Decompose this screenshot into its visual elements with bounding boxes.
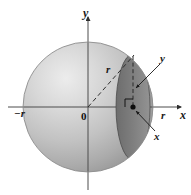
x-axis-label: x xyxy=(179,108,186,122)
disk-radius-y-label: y xyxy=(158,52,165,64)
origin-label: 0 xyxy=(81,110,87,122)
sphere-diagram-figure: y x 0 r −r r y x xyxy=(0,0,191,195)
negative-radius-label: −r xyxy=(14,107,26,119)
radius-label: r xyxy=(106,63,111,75)
disk-offset-x-label: x xyxy=(153,130,160,142)
positive-radius-label: r xyxy=(161,109,166,121)
point-marker xyxy=(130,104,135,109)
y-axis-label: y xyxy=(81,6,89,20)
sphere-diagram-canvas: y x 0 r −r r y x xyxy=(0,0,191,195)
